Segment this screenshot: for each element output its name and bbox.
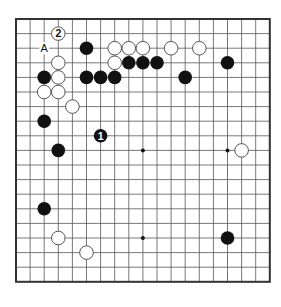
move-number: 1 [98, 130, 104, 142]
black-stone [122, 56, 136, 70]
white-stone [52, 56, 66, 70]
black-stone [37, 71, 51, 85]
black-stone [150, 56, 164, 70]
go-board: 12A [0, 0, 281, 307]
white-stone [108, 56, 122, 70]
black-stone [37, 114, 51, 128]
white-stone [164, 41, 178, 55]
white-stone [108, 41, 122, 55]
black-stone [94, 71, 108, 85]
white-stone [52, 85, 66, 99]
white-stone [235, 144, 249, 158]
white-stone [136, 41, 150, 55]
move-number: 2 [55, 27, 61, 39]
black-stone [37, 202, 51, 216]
point-label: A [41, 42, 49, 54]
white-stone [193, 41, 207, 55]
star-point [141, 236, 145, 240]
star-point [226, 148, 230, 152]
white-stone [37, 85, 51, 99]
black-stone [108, 71, 122, 85]
white-stone [80, 246, 94, 260]
white-stone [66, 100, 80, 114]
black-stone [136, 56, 150, 70]
black-stone [221, 231, 235, 245]
white-stone [52, 71, 66, 85]
black-stone [178, 71, 192, 85]
white-stone [122, 41, 136, 55]
black-stone [52, 144, 66, 158]
star-point [141, 148, 145, 152]
black-stone [80, 41, 94, 55]
white-stone [52, 231, 66, 245]
black-stone [80, 71, 94, 85]
black-stone [221, 56, 235, 70]
